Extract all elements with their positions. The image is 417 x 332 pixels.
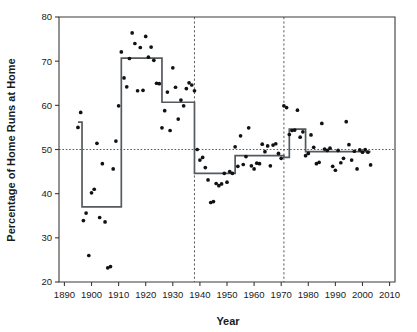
data-point (236, 164, 240, 168)
data-point (353, 149, 357, 153)
data-point (152, 58, 156, 62)
data-point (101, 162, 105, 166)
data-point (363, 148, 367, 152)
data-point (361, 150, 365, 154)
y-tick-label: 20 (41, 276, 52, 287)
data-point (328, 146, 332, 150)
home-run-percentage-chart: 20304050607080 1890190019101920193019401… (0, 0, 417, 332)
x-tick-label: 1960 (244, 289, 265, 300)
data-point (136, 89, 140, 93)
data-point (111, 167, 115, 171)
data-point (198, 158, 202, 162)
data-point (306, 152, 310, 156)
data-point (266, 144, 270, 148)
data-point (344, 120, 348, 124)
data-point (174, 85, 178, 89)
data-point (296, 108, 300, 112)
y-tick-label: 40 (41, 188, 52, 199)
data-point (233, 145, 237, 149)
x-tick-label: 1920 (135, 289, 156, 300)
data-point (350, 158, 354, 162)
data-point (144, 35, 148, 39)
x-tick-label: 1890 (54, 289, 75, 300)
x-tick-label: 1940 (189, 289, 210, 300)
x-tick-label: 2000 (352, 289, 373, 300)
data-point (193, 89, 197, 93)
y-tick-label: 80 (41, 11, 52, 22)
data-point (103, 220, 107, 224)
data-point (220, 182, 224, 186)
data-point (87, 254, 91, 258)
data-point (252, 167, 256, 171)
data-point (260, 142, 264, 146)
data-point (157, 82, 161, 86)
x-axis-title: Year (216, 315, 240, 327)
data-point (212, 200, 216, 204)
data-point (79, 111, 83, 115)
data-point (263, 150, 267, 154)
chart-canvas: 20304050607080 1890190019101920193019401… (0, 0, 417, 332)
data-point (84, 211, 88, 215)
data-point (160, 126, 164, 130)
data-point (168, 129, 172, 133)
data-point (147, 55, 151, 59)
x-tick-label: 1980 (298, 289, 319, 300)
data-point (206, 178, 210, 182)
data-point (366, 150, 370, 154)
data-point (285, 106, 289, 110)
data-point (125, 85, 129, 89)
data-point (279, 156, 283, 160)
data-point (258, 162, 262, 166)
x-tick-label: 1950 (216, 289, 237, 300)
data-point (293, 128, 297, 132)
data-point (347, 143, 351, 147)
data-point (163, 109, 167, 113)
data-point (133, 42, 137, 46)
data-point (114, 139, 118, 143)
data-point (301, 130, 305, 134)
data-point (298, 135, 302, 139)
data-point (149, 45, 153, 49)
data-point (317, 160, 321, 164)
data-point (98, 216, 102, 220)
data-point (241, 163, 245, 167)
y-tick-label: 30 (41, 232, 52, 243)
x-tick-label: 1990 (325, 289, 346, 300)
data-point (138, 46, 142, 50)
data-point (128, 57, 132, 61)
data-point (239, 134, 243, 138)
data-point (90, 191, 94, 195)
y-tick-label: 60 (41, 100, 52, 111)
step-function-series (78, 58, 371, 207)
data-point (179, 98, 183, 102)
data-point (190, 83, 194, 87)
x-tick-label: 1970 (271, 289, 292, 300)
x-tick-label: 1910 (108, 289, 129, 300)
data-point (331, 164, 335, 168)
data-point (369, 163, 373, 167)
data-point (269, 164, 273, 168)
data-point (334, 168, 338, 172)
y-axis-ticks: 20304050607080 (41, 11, 59, 287)
y-tick-label: 50 (41, 144, 52, 155)
data-point (109, 265, 113, 269)
data-point (141, 88, 145, 92)
data-point (287, 133, 291, 137)
data-point (277, 152, 281, 156)
data-point (231, 172, 235, 176)
data-point (336, 149, 340, 153)
data-point (117, 104, 121, 108)
data-point (222, 172, 226, 176)
data-point (355, 167, 359, 171)
data-point (176, 117, 180, 121)
data-point (201, 156, 205, 160)
data-point (185, 87, 189, 91)
x-tick-label: 1900 (81, 289, 102, 300)
data-point (82, 219, 86, 223)
y-tick-label: 70 (41, 56, 52, 67)
data-point (244, 155, 248, 159)
step-function-line (78, 58, 371, 207)
data-point (130, 31, 134, 35)
data-point (309, 133, 313, 137)
data-point (339, 161, 343, 165)
